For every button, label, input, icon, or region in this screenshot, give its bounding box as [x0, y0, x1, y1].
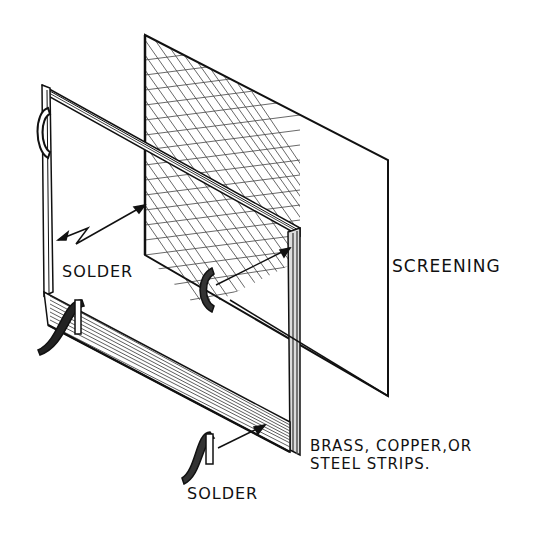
- label-solder-bottom: SOLDER: [187, 484, 258, 503]
- label-solder-left: SOLDER: [62, 262, 133, 281]
- diagram-canvas: SCREENING SOLDER SOLDER BRASS, COPPER,OR…: [0, 0, 542, 534]
- label-strips-line1: BRASS, COPPER,OR: [310, 437, 472, 455]
- label-screening: SCREENING: [392, 256, 501, 276]
- label-frame-strips: BRASS, COPPER,OR STEEL STRIPS.: [310, 437, 472, 473]
- label-strips-line2: STEEL STRIPS.: [310, 455, 472, 473]
